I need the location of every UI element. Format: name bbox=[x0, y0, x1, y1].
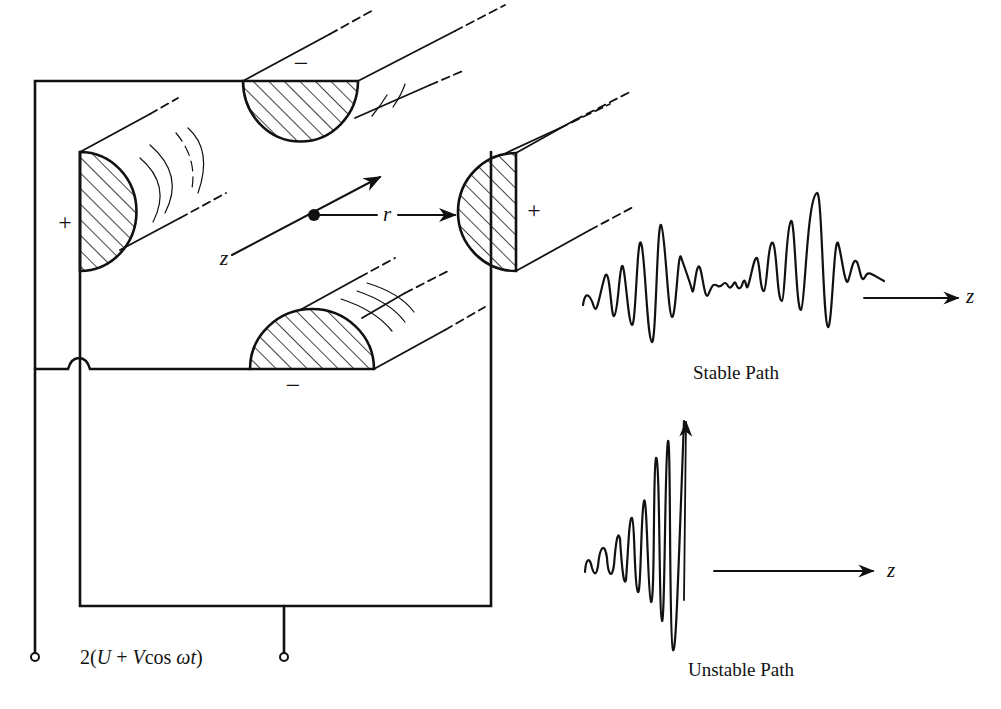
rod-right bbox=[458, 92, 635, 271]
polarity-bottom: − bbox=[286, 371, 301, 400]
terminal-right bbox=[280, 653, 288, 661]
r-axis-label: r bbox=[383, 202, 392, 226]
unstable-path-caption: Unstable Path bbox=[688, 659, 795, 680]
polarity-right: + bbox=[527, 197, 541, 223]
unstable-z-label: z bbox=[886, 558, 895, 582]
z-axis-label: z bbox=[219, 245, 229, 270]
rod-bottom bbox=[250, 258, 485, 369]
coordinate-axes bbox=[232, 177, 455, 255]
supply-voltage-label: 2(U + Vcos ωt) bbox=[80, 646, 203, 669]
stable-path-waveform bbox=[583, 193, 884, 342]
polarity-top: − bbox=[294, 49, 309, 78]
rod-left bbox=[80, 98, 226, 271]
unstable-growth-arrow bbox=[684, 422, 686, 600]
terminal-left bbox=[31, 653, 39, 661]
unstable-path-waveform bbox=[585, 421, 684, 650]
rod-top bbox=[243, 5, 505, 142]
stable-z-label: z bbox=[965, 284, 974, 308]
polarity-left: + bbox=[58, 209, 72, 235]
stable-path-caption: Stable Path bbox=[693, 362, 780, 383]
quadrupole-diagram: − − + + z r 2(U + Vcos ωt) z Stable Path… bbox=[0, 0, 1001, 709]
